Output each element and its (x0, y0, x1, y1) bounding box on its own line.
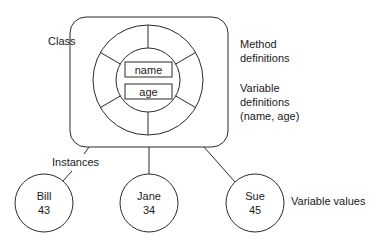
instance-value: 34 (143, 204, 155, 216)
instance-value: 45 (249, 204, 261, 216)
class-label: Class (48, 35, 76, 47)
instance-sue: Sue 45 (226, 174, 284, 232)
method-definitions-line2: definitions (240, 52, 290, 64)
method-definitions-line1: Method (240, 38, 277, 50)
instance-jane: Jane 34 (120, 174, 178, 232)
variable-definitions-line2: definitions (240, 96, 290, 108)
class-instance-diagram: name age Class Method definitions Variab… (0, 0, 386, 248)
class-box (70, 17, 228, 147)
instance-name: Jane (137, 190, 161, 202)
method-segment-dividers (100, 25, 195, 135)
instance-name: Sue (245, 190, 265, 202)
instances-label: Instances (52, 156, 100, 168)
variable-definitions-line1: Variable (240, 82, 280, 94)
field-name-label: name (135, 64, 163, 76)
variable-values-label: Variable values (291, 195, 366, 207)
instance-bill: Bill 43 (15, 174, 73, 232)
instance-value: 43 (38, 204, 50, 216)
variable-definitions-line3: (name, age) (240, 110, 299, 122)
field-age-label: age (139, 86, 157, 98)
variable-core (116, 48, 180, 112)
instance-name: Bill (37, 190, 52, 202)
